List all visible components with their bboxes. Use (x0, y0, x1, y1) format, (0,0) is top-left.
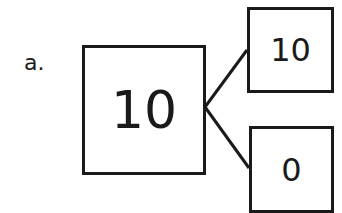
part-box-bottom: 0 (249, 126, 334, 213)
connector-line-top (205, 50, 247, 107)
part-box-top: 10 (247, 7, 334, 93)
part-value-bottom: 0 (281, 151, 301, 189)
whole-box: 10 (82, 45, 206, 175)
part-value-top: 10 (270, 31, 311, 69)
connector-line-bottom (205, 107, 249, 168)
whole-value: 10 (111, 80, 177, 140)
